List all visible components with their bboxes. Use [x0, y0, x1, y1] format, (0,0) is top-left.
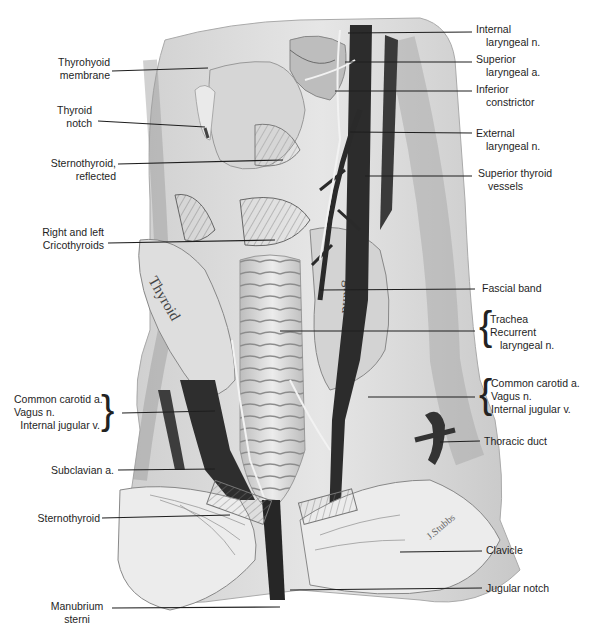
label-line: laryngeal n.: [476, 36, 540, 49]
label-external-laryngeal: External laryngeal n.: [476, 127, 540, 153]
label-line: Jugular notch: [486, 582, 549, 595]
label-left-carotid-group: Common carotid a. Vagus n. Internal jugu…: [14, 393, 100, 432]
label-line: Manubrium: [46, 600, 108, 613]
label-line: Internal jugular v.: [14, 419, 100, 432]
label-right-carotid-group: Common carotid a. Vagus n. Internal jugu…: [491, 377, 580, 416]
label-line: Thyrohyoid: [34, 56, 110, 69]
label-inferior-constrictor: Inferior constrictor: [476, 83, 534, 109]
label-line: Clavicle: [486, 544, 523, 557]
label-line: Internal: [476, 23, 540, 36]
label-thyrohyoid-membrane: Thyrohyoid membrane: [34, 56, 110, 82]
label-line: sterni: [46, 613, 108, 626]
label-line: reflected: [30, 170, 116, 183]
label-line: constrictor: [476, 96, 534, 109]
label-sternothyroid: Sternothyroid: [28, 512, 100, 525]
label-line: vessels: [478, 180, 552, 193]
label-line: Recurrent: [490, 326, 554, 339]
label-line: Common carotid a.: [14, 393, 100, 406]
label-cricothyroids: Right and left Cricothyroids: [20, 226, 104, 252]
label-line: Fascial band: [482, 282, 542, 295]
label-jugular-notch: Jugular notch: [486, 582, 549, 595]
label-thyroid-notch: Thyroid notch: [40, 104, 92, 130]
label-line: Vagus n.: [14, 406, 100, 419]
label-line: Cricothyroids: [20, 239, 104, 252]
left-brace: }: [101, 393, 114, 427]
label-line: Trachea: [490, 313, 554, 326]
label-line: laryngeal a.: [476, 66, 540, 79]
label-line: Sternothyroid: [28, 512, 100, 525]
label-line: Right and left: [20, 226, 104, 239]
label-line: Internal jugular v.: [491, 403, 580, 416]
label-line: Vagus n.: [491, 390, 580, 403]
label-line: Thoracic duct: [484, 435, 547, 448]
label-sternothyroid-reflected: Sternothyroid, reflected: [30, 157, 116, 183]
trachea: [240, 255, 305, 510]
label-line: laryngeal n.: [476, 140, 540, 153]
label-subclavian: Subclavian a.: [40, 464, 114, 477]
label-clavicle: Clavicle: [486, 544, 523, 557]
label-line: Thyroid: [40, 104, 92, 117]
label-line: Subclavian a.: [40, 464, 114, 477]
label-line: membrane: [34, 69, 110, 82]
label-line: laryngeal n.: [490, 339, 554, 352]
label-line: notch: [40, 117, 92, 130]
label-thoracic-duct: Thoracic duct: [484, 435, 547, 448]
label-trachea-group: Trachea Recurrent laryngeal n.: [490, 313, 554, 352]
label-internal-laryngeal: Internal laryngeal n.: [476, 23, 540, 49]
label-line: External: [476, 127, 540, 140]
label-line: Sternothyroid,: [30, 157, 116, 170]
label-fascial-band: Fascial band: [482, 282, 542, 295]
label-line: Superior thyroid: [478, 167, 552, 180]
label-superior-thyroid: Superior thyroid vessels: [478, 167, 552, 193]
label-line: Common carotid a.: [491, 377, 580, 390]
label-line: Inferior: [476, 83, 534, 96]
label-manubrium: Manubrium sterni: [46, 600, 108, 626]
label-line: Superior: [476, 53, 540, 66]
label-superior-laryngeal: Superior laryngeal a.: [476, 53, 540, 79]
